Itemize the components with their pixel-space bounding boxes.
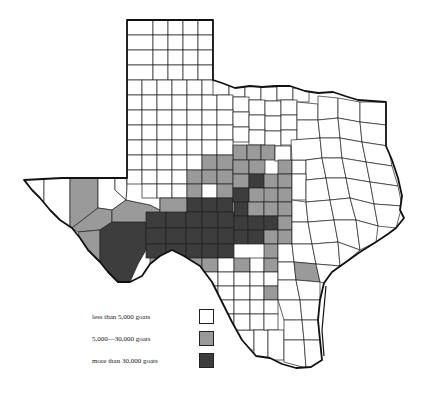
legend-swatch-grey <box>199 331 214 346</box>
legend-label: less than 5,000 goats <box>92 313 150 321</box>
legend: less than 5,000 goats 5,000—30,000 goats… <box>92 309 232 375</box>
legend-item-low: less than 5,000 goats <box>92 309 232 331</box>
legend-item-mid: 5,000—30,000 goats <box>92 331 232 353</box>
legend-label: 5,000—30,000 goats <box>92 335 151 343</box>
legend-swatch-dark <box>199 353 214 368</box>
panhandle-counties <box>127 20 217 170</box>
legend-label: more than 30,000 goats <box>92 357 158 365</box>
legend-swatch-white <box>199 309 214 324</box>
legend-item-high: more than 30,000 goats <box>92 353 232 375</box>
barrier-island <box>322 286 326 356</box>
